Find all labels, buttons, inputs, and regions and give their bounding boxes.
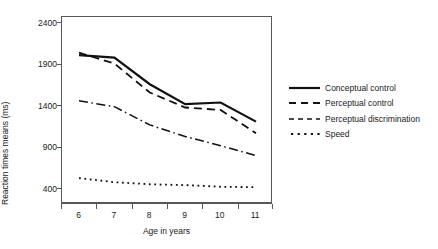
x-tick-mark-4: [238, 204, 239, 209]
legend-line-dashed-icon: [289, 97, 320, 109]
y-tick-label-1400: 1400: [17, 101, 57, 111]
x-tick-mark-right-end: [272, 204, 273, 209]
legend-item-speed: Speed: [289, 127, 435, 143]
legend-line-solid-icon: [289, 82, 320, 94]
x-tick-label-9: 9: [173, 210, 197, 220]
x-tick-label-7: 7: [102, 210, 126, 220]
legend-label-perceptual-discrimination: Perceptual discrimination: [325, 115, 420, 124]
y-tick-label-900: 900: [17, 142, 57, 152]
x-tick-mark-1: [132, 204, 133, 209]
x-axis-title: Age in years: [61, 226, 272, 236]
x-tick-mark-3: [202, 204, 203, 209]
legend-label-perceptual-control: Perceptual control: [325, 99, 394, 108]
chart-figure: Reaction times means (ms) 2400 1900 1400…: [0, 0, 438, 249]
y-axis-title: Reaction times means (ms): [10, 55, 26, 195]
series-line-conceptual-control: [79, 55, 256, 121]
plot-lines: [61, 16, 272, 203]
y-tick-label-400: 400: [17, 184, 57, 194]
legend-label-speed: Speed: [325, 130, 350, 139]
legend-line-dotted-icon: [289, 128, 320, 140]
legend-item-perceptual-discrimination: Perceptual discrimination: [289, 111, 435, 127]
legend-line-dashdot-icon: [289, 113, 320, 125]
series-line-perceptual-discrimination: [79, 101, 256, 156]
legend-item-conceptual-control: Conceptual control: [289, 80, 435, 96]
legend: Conceptual control Perceptual control Pe…: [289, 80, 435, 142]
x-tick-label-6: 6: [67, 210, 91, 220]
series-line-speed: [79, 178, 256, 187]
x-tick-mark-left-end: [61, 204, 62, 209]
legend-label-conceptual-control: Conceptual control: [325, 84, 396, 93]
legend-item-perceptual-control: Perceptual control: [289, 96, 435, 112]
x-tick-label-8: 8: [137, 210, 161, 220]
y-tick-label-2400: 2400: [17, 18, 57, 28]
y-axis-title-text: Reaction times means (ms): [0, 102, 10, 205]
x-tick-mark-2: [167, 204, 168, 209]
x-tick-mark-0: [96, 204, 97, 209]
x-tick-label-10: 10: [208, 210, 232, 220]
y-tick-label-1900: 1900: [17, 59, 57, 69]
x-tick-label-11: 11: [243, 210, 267, 220]
